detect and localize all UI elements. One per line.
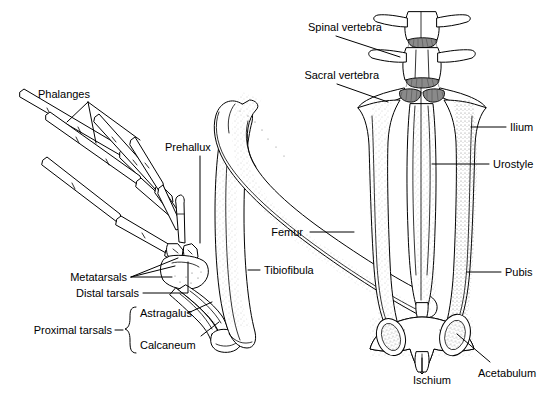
label-prehallux: Prehallux: [165, 141, 211, 153]
diagram-canvas: Phalanges Prehallux Metatarsals Distal t…: [0, 0, 551, 396]
label-acetabulum: Acetabulum: [478, 367, 536, 379]
label-pubis: Pubis: [505, 266, 533, 278]
leader-spinal-vertebra: [336, 36, 400, 57]
label-proximal-tarsals: Proximal tarsals: [34, 324, 113, 336]
label-femur: Femur: [271, 226, 303, 238]
label-distal-tarsals: Distal tarsals: [76, 287, 139, 299]
spinal-vertebra-bone: [374, 12, 471, 48]
leader-phalanges-1: [67, 102, 88, 122]
label-spinal-vertebra: Spinal vertebra: [308, 21, 383, 33]
second-vertebra-bone: [369, 48, 476, 88]
label-tibiofibula: Tibiofibula: [264, 264, 315, 276]
label-calcaneum: Calcaneum: [140, 339, 196, 351]
anatomical-figure: Phalanges Prehallux Metatarsals Distal t…: [0, 0, 551, 396]
ilium-right-bone: [440, 95, 495, 335]
pelvic-girdle-group: [355, 12, 495, 374]
label-phalanges: Phalanges: [38, 88, 90, 100]
label-astragalus: Astragalus: [140, 307, 192, 319]
label-sacral-vertebra: Sacral vertebra: [304, 69, 379, 81]
label-ilium: Ilium: [510, 121, 533, 133]
tarsal-head: [160, 255, 208, 289]
proximal-tarsals-bracket: [115, 307, 136, 353]
label-urostyle: Urostyle: [493, 158, 533, 170]
label-metatarsals: Metatarsals: [70, 271, 127, 283]
leader-sacral-vertebra: [337, 84, 388, 102]
label-ischium: Ischium: [413, 374, 451, 386]
prehallux-bone: [176, 195, 185, 243]
